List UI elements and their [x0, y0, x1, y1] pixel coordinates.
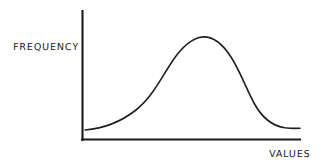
- distribution-sketch-canvas: [0, 0, 322, 165]
- x-axis-label: VALUES: [269, 148, 311, 159]
- bell-curve-line: [85, 37, 300, 130]
- y-axis-label: FREQUENCY: [13, 41, 79, 52]
- sketch-figure: FREQUENCY VALUES: [0, 0, 322, 165]
